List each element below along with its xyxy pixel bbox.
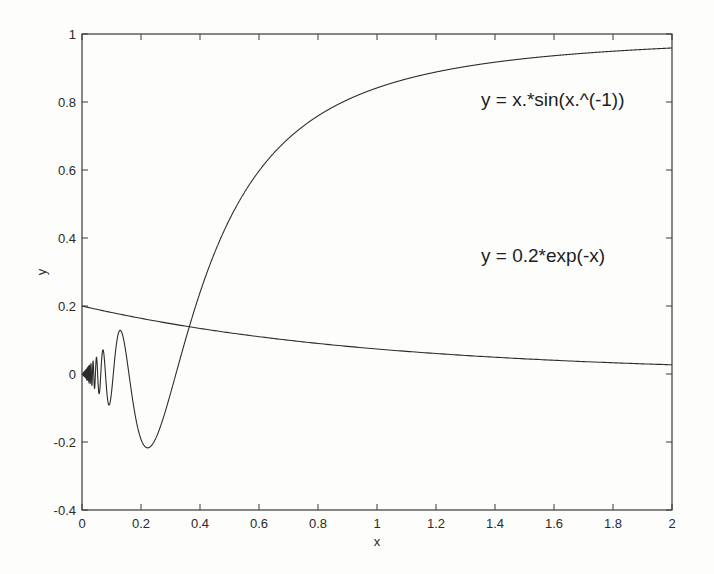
y-tick-label: -0.4 (54, 503, 76, 518)
y-tick-label: 0 (69, 367, 76, 382)
x-tick-label: 2 (668, 516, 675, 531)
y-axis-label: y (34, 268, 49, 275)
x-tick-label: 1.4 (486, 516, 504, 531)
x-tick-label: 0 (78, 516, 85, 531)
x-tick-label: 1.8 (604, 516, 622, 531)
x-tick-label: 1.2 (427, 516, 445, 531)
x-tick-label: 1 (373, 516, 380, 531)
x-tick-label: 0.2 (132, 516, 150, 531)
annotation-exp: y = 0.2*exp(-x) (481, 245, 605, 266)
x-tick-label: 0.6 (250, 516, 268, 531)
y-tick-label: 0.4 (58, 231, 76, 246)
x-axis-label: x (374, 534, 381, 549)
y-tick-label: 0.2 (58, 299, 76, 314)
y-tick-label: -0.2 (54, 435, 76, 450)
y-tick-label: 0.8 (58, 95, 76, 110)
x-tick-label: 0.4 (191, 516, 209, 531)
x-tick-label: 1.6 (545, 516, 563, 531)
y-tick-label: 0.6 (58, 163, 76, 178)
annotation-sin: y = x.*sin(x.^(-1)) (481, 89, 625, 110)
y-tick-label: 1 (69, 27, 76, 42)
x-tick-label: 0.8 (309, 516, 327, 531)
chart: 00.20.40.60.811.21.41.61.82 -0.4-0.200.2… (0, 0, 714, 574)
